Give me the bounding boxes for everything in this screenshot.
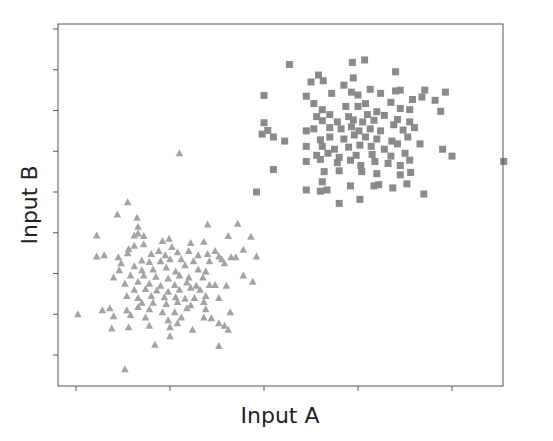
square-marker <box>261 119 268 126</box>
square-marker <box>377 127 384 134</box>
square-marker <box>406 106 413 113</box>
square-marker <box>342 103 349 110</box>
square-marker <box>303 127 310 134</box>
square-marker <box>349 59 356 66</box>
square-marker <box>381 112 388 119</box>
square-marker <box>356 142 363 149</box>
square-marker <box>402 150 409 157</box>
square-marker <box>351 131 358 138</box>
square-marker <box>253 189 260 196</box>
square-marker <box>361 56 368 63</box>
square-marker <box>317 156 324 163</box>
square-marker <box>373 170 380 177</box>
square-marker <box>303 93 310 100</box>
square-marker <box>404 133 411 140</box>
square-marker <box>348 123 355 130</box>
square-marker <box>281 138 288 145</box>
square-marker <box>355 103 362 110</box>
square-marker <box>347 182 354 189</box>
square-marker <box>326 133 333 140</box>
square-marker <box>261 92 268 99</box>
square-marker <box>310 100 317 107</box>
square-marker <box>437 108 444 115</box>
square-marker <box>403 180 410 187</box>
square-marker <box>270 133 277 140</box>
square-marker <box>432 97 439 104</box>
square-marker <box>358 168 365 175</box>
square-marker <box>319 178 326 185</box>
square-marker <box>308 78 315 85</box>
square-marker <box>371 158 378 165</box>
square-marker <box>442 89 449 96</box>
square-marker <box>397 162 404 169</box>
square-marker <box>286 61 293 68</box>
square-marker <box>320 77 327 84</box>
x-axis-ticks <box>76 386 452 391</box>
square-marker <box>381 146 388 153</box>
square-marker <box>334 118 341 125</box>
square-marker <box>326 111 333 118</box>
square-marker <box>370 117 377 124</box>
square-marker <box>310 125 317 132</box>
square-marker <box>375 181 382 188</box>
square-marker <box>449 153 456 160</box>
square-marker <box>336 167 343 174</box>
square-marker <box>356 196 363 203</box>
square-marker <box>350 74 357 81</box>
y-axis-ticks <box>53 29 58 355</box>
square-marker <box>397 87 404 94</box>
square-marker <box>362 100 369 107</box>
square-marker <box>319 117 326 124</box>
square-marker <box>340 82 347 89</box>
square-marker <box>387 153 394 160</box>
square-marker <box>319 106 326 113</box>
square-marker <box>319 143 326 150</box>
square-marker <box>377 90 384 97</box>
square-marker <box>336 200 343 207</box>
square-marker <box>348 89 355 96</box>
square-marker <box>326 124 333 131</box>
square-marker <box>364 111 371 118</box>
square-marker <box>397 171 404 178</box>
square-marker <box>387 99 394 106</box>
square-marker <box>303 186 310 193</box>
square-marker <box>421 87 428 94</box>
square-marker <box>411 124 418 131</box>
square-marker <box>357 162 364 169</box>
square-marker <box>417 140 424 147</box>
square-marker <box>373 136 380 143</box>
square-marker <box>500 158 507 165</box>
square-marker <box>390 121 397 128</box>
square-marker <box>439 146 446 153</box>
square-marker <box>400 127 407 134</box>
square-marker <box>368 143 375 150</box>
square-marker <box>418 94 425 101</box>
scatter-chart: Input A Input B <box>0 0 553 441</box>
square-marker <box>392 68 399 75</box>
square-marker <box>270 166 277 173</box>
square-marker <box>406 157 413 164</box>
square-marker <box>397 105 404 112</box>
square-marker <box>407 169 414 176</box>
square-marker <box>359 118 366 125</box>
square-marker <box>259 131 266 138</box>
square-marker <box>324 150 331 157</box>
square-marker <box>373 108 380 115</box>
square-marker <box>409 96 416 103</box>
square-marker <box>367 86 374 93</box>
square-marker <box>350 116 357 123</box>
square-marker <box>331 146 338 153</box>
square-marker <box>317 136 324 143</box>
square-marker <box>394 140 401 147</box>
square-marker <box>369 151 376 158</box>
square-marker <box>347 157 354 164</box>
square-marker <box>338 125 345 132</box>
square-marker <box>303 143 310 150</box>
square-marker <box>355 92 362 99</box>
square-marker <box>321 168 328 175</box>
y-axis-label: Input B <box>17 165 42 244</box>
square-marker <box>420 191 427 198</box>
x-axis-label: Input A <box>240 403 319 428</box>
square-marker <box>385 160 392 167</box>
square-marker <box>367 125 374 132</box>
